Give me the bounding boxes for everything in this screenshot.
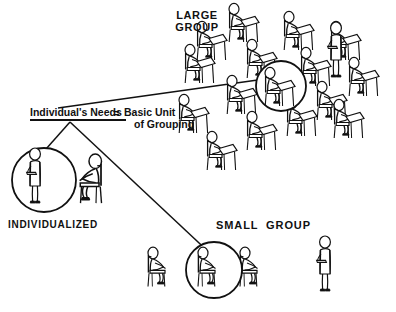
connector-to-small-group <box>70 122 214 257</box>
label-large-group-line1: LARGE <box>176 9 218 21</box>
label-basic-unit-line2: of Grouping <box>134 119 194 131</box>
individualized-circle <box>12 148 76 212</box>
label-individualized: INDIVIDUALIZED <box>8 219 98 230</box>
label-large-group-line2: GROUP <box>175 21 218 33</box>
diagram-canvas: LARGEGROUP SMALL GROUP INDIVIDUALIZED In… <box>0 0 396 312</box>
small-group-cluster <box>148 236 330 298</box>
diagram-artwork <box>0 0 396 312</box>
label-large-group: LARGEGROUP <box>174 9 220 34</box>
highlighted-large-group-student <box>256 61 306 111</box>
label-individuals-needs: Individual's Needs <box>30 107 122 119</box>
label-equals-sign: = <box>113 107 119 119</box>
label-small-group: SMALL GROUP <box>216 219 306 231</box>
label-basic-unit-line1: Basic Unit <box>124 107 175 119</box>
individualized-cluster <box>12 148 102 212</box>
